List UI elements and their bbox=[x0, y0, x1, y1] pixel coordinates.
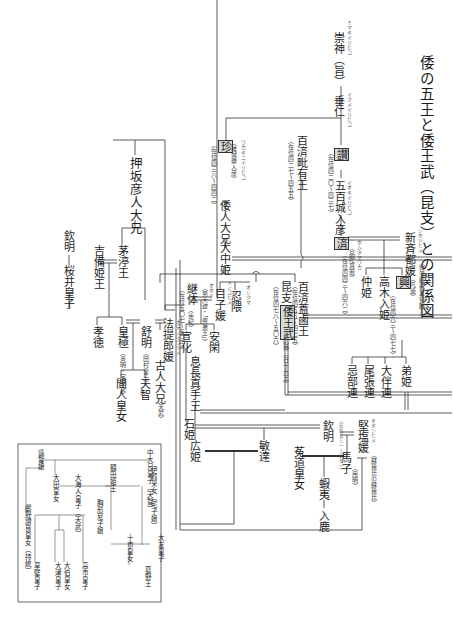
person-chinu: 茅渟王 bbox=[117, 245, 128, 278]
inset-person-nukata: 額田姫王 bbox=[108, 464, 115, 492]
person-niiki: 新斉都媛 bbox=[404, 232, 415, 276]
person-kogyoku: 皇極 bbox=[117, 326, 128, 348]
inset-person-iga: 伊賀采女（宅子娘） bbox=[149, 466, 156, 529]
menoko-ruby: メノコヒメ bbox=[226, 280, 231, 305]
ko-alias: （凡連） bbox=[409, 276, 415, 300]
person-kinmei: 欽明 bbox=[322, 420, 333, 442]
king-mark-san: 讃 bbox=[334, 148, 349, 161]
inset-person-otsu: 大津皇子 bbox=[53, 562, 60, 590]
person-hote: 法提郎媛 bbox=[162, 318, 173, 362]
sei-reign: （在位四四三〜四六二） bbox=[341, 252, 347, 318]
person-oshisaka: 押坂彦人大兄 bbox=[128, 157, 141, 235]
person-gaero: 百済蓋鹵王 bbox=[297, 281, 308, 336]
person-osakabe: 忌部連 bbox=[346, 365, 357, 398]
person-sei: 済 bbox=[334, 237, 349, 250]
person-kinmei-top: 欽明 bbox=[63, 230, 74, 252]
person-jomei: 舒明 bbox=[140, 326, 151, 348]
ko-reign: （在位四六三〜四七七） bbox=[389, 292, 395, 358]
person-umako: 馬子 bbox=[340, 452, 351, 474]
inset-person-kusakabe: 草壁皇子 bbox=[32, 562, 39, 590]
person-iokiiri: 五百城入彦 bbox=[334, 180, 345, 235]
person-homutawake: 倭人大兄 bbox=[219, 200, 230, 244]
king-mark-sei: 済 bbox=[334, 237, 349, 250]
person-konki: 昆支 bbox=[280, 281, 291, 303]
person-ishihime: 石姫 bbox=[183, 418, 194, 440]
sei-ruby: ホムタマワカ bbox=[356, 240, 361, 270]
person-sujin: 崇神（旨） bbox=[333, 32, 344, 87]
chin-alias: （稚城瓊入彦） bbox=[230, 140, 236, 182]
inset-person-takechi: 高市皇子 bbox=[80, 562, 87, 590]
konki-reign: （在位四七八〜五〇六） bbox=[272, 283, 278, 349]
inset-person-toichi: 十市皇女 bbox=[125, 534, 132, 562]
inset-person-oku: 大伯皇女 bbox=[62, 562, 69, 590]
ohodo-ruby: オホド bbox=[208, 283, 213, 298]
person-kitashi: 堅塩媛 bbox=[357, 420, 368, 453]
person-owari: 尾張連 bbox=[363, 365, 374, 398]
umako-alias: （用明） bbox=[351, 465, 357, 489]
kitashi-alias: （蘇我氏の蘇我氏） bbox=[370, 452, 376, 506]
person-emishi: 蝦夷 bbox=[318, 478, 329, 500]
inset-person-ooama: 大海人皇子（天武） bbox=[73, 474, 80, 537]
kitashi-ruby: キタシヒメ bbox=[370, 418, 375, 443]
oshikuma-ruby: オシクマ bbox=[245, 285, 250, 305]
person-san: 讃 bbox=[334, 148, 349, 161]
inset-person-otomo: 大友皇子 bbox=[156, 534, 163, 562]
niiki-ruby: シセツヒメ bbox=[417, 228, 422, 253]
person-sakurai: 桜井皇子 bbox=[63, 265, 74, 309]
sei-alias: （品陀真若） bbox=[348, 245, 354, 281]
person-senka: 宣化 bbox=[180, 331, 191, 353]
chin-ruby: ワカキニイリヒコ bbox=[240, 140, 245, 180]
person-hashihito: 間人皇女 bbox=[115, 378, 126, 422]
bizu-reign: （在位四二七〜四五五） bbox=[287, 138, 293, 204]
inset-person-kadono: 葛野王 bbox=[143, 566, 150, 587]
inset-family-tree: 遠智娘 中大兄皇子（天智） 伊賀采女（宅子娘） 額田姫王 大田皇女 大海人皇子（… bbox=[18, 444, 161, 602]
person-nakahime: 仲姫 bbox=[360, 276, 371, 298]
person-bidatsu: 敏達 bbox=[258, 440, 269, 462]
inset-person-amako: 胸形尼子娘 bbox=[95, 499, 102, 534]
iokiiri-ruby: イオキイリヒコ bbox=[346, 180, 351, 215]
keitai-alias: （余紀） bbox=[187, 307, 193, 331]
chin-reign: （在位四三八〜四四二） bbox=[210, 142, 216, 208]
person-ankan: 安閑 bbox=[208, 331, 219, 353]
person-suinin: 垂仁 bbox=[333, 95, 344, 117]
inset-person-ota: 大田皇女 bbox=[51, 474, 58, 502]
person-menoko: 目子媛 bbox=[214, 288, 225, 321]
person-onakahime: 大中姫 bbox=[219, 242, 230, 275]
person-otomo: 大伴連 bbox=[380, 365, 391, 398]
person-hirohime: 広姫 bbox=[189, 440, 200, 462]
person-okinaga: 息長真手王 bbox=[189, 356, 200, 411]
person-keitai: 継体 bbox=[186, 283, 197, 305]
person-takaki: 高木入姫 bbox=[378, 276, 389, 320]
konki-alias: ・応神（日十大王） bbox=[282, 333, 288, 387]
person-ubara: 菟道皇女 bbox=[293, 446, 304, 490]
suinin-ruby: イクメイリヒコ bbox=[346, 92, 351, 127]
person-bizu: 百済毗有王 bbox=[296, 135, 307, 190]
genealogy-diagram: 倭の五王と倭王武（昆支）との関係図 ミマキイリヒコ 崇神（旨） イクメイリヒコ … bbox=[0, 0, 453, 627]
person-kotoku: 孝徳 bbox=[92, 326, 103, 348]
inset-person-uno: 鸕野讃良皇女（持統） bbox=[23, 504, 30, 574]
ko-ruby: オオシムラジ bbox=[418, 285, 423, 315]
furuhito-alias: （天武） bbox=[157, 398, 163, 422]
sujin-ruby: ミマキイリヒコ bbox=[346, 20, 351, 55]
person-otohime: 弟姫 bbox=[400, 365, 411, 387]
person-tenji: 天智 bbox=[139, 378, 150, 400]
person-iruka: 入鹿 bbox=[318, 510, 329, 532]
inset-person-ochi: 遠智娘 bbox=[36, 449, 43, 470]
person-kibi: 吉備姫王 bbox=[93, 245, 104, 289]
hote-ruby: ホテノイラツメ bbox=[175, 320, 180, 355]
